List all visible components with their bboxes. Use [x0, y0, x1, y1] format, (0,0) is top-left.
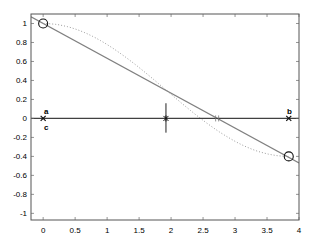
y-tick-label: 0.8	[16, 38, 28, 47]
line-chart: abc 00.511.522.533.54 10.80.60.40.20-0.2…	[0, 0, 315, 244]
y-tick-label: -0.8	[13, 190, 27, 199]
y-tick-label: 0.4	[16, 76, 28, 85]
straight-line	[31, 17, 299, 163]
y-tick-label: -1	[20, 209, 28, 218]
x-tick-label: 3	[233, 226, 238, 235]
y-tick-label: 0.2	[16, 95, 28, 104]
y-tick-label: -0.6	[13, 171, 27, 180]
y-tick-label: 0	[23, 114, 28, 123]
x-tick-label: 2	[169, 226, 174, 235]
x-tick-label: 0	[41, 226, 46, 235]
x-tick-label: 1	[105, 226, 110, 235]
series-layer	[31, 17, 299, 163]
x-tick-label: 3.5	[261, 226, 273, 235]
x-tick-label: 4	[297, 226, 302, 235]
y-tick-label: -0.4	[13, 152, 27, 161]
x-tick-label: 1.5	[134, 226, 146, 235]
annotation-layer: abc	[44, 107, 292, 132]
y-tick-label: 0.6	[16, 57, 28, 66]
y-tick-label: -0.2	[13, 133, 27, 142]
x-axis-ticks: 00.511.522.533.54	[41, 14, 302, 235]
x-tick-label: 0.5	[70, 226, 82, 235]
y-tick-label: 1	[23, 19, 28, 28]
point-label-c: c	[44, 123, 49, 132]
point-label-a: a	[44, 107, 49, 116]
point-label-b: b	[287, 107, 292, 116]
x-tick-label: 2.5	[197, 226, 209, 235]
